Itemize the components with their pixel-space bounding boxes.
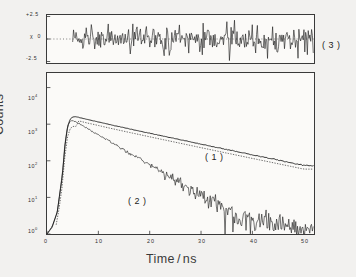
y-tick-1e1: 101 [28, 195, 38, 203]
x-axis-label: Time/ns [146, 252, 197, 266]
y-tick-1e4: 104 [28, 93, 38, 101]
x-tick-10: 10 [95, 238, 103, 244]
x-axis-label-slash: / [175, 252, 183, 266]
y-tick-1e2-exp: 2 [35, 161, 38, 166]
x-tick-20: 20 [147, 238, 155, 244]
curve-1-label: ( 1 ) [205, 152, 224, 162]
panel-3-label: ( 3 ) [322, 40, 341, 50]
decay-plot-panel [46, 72, 315, 235]
x-tick-0: 0 [44, 238, 48, 244]
x-tick-30: 30 [198, 238, 206, 244]
chi-symbol: χ [30, 33, 33, 39]
y-tick-1e4-exp: 4 [35, 93, 38, 98]
y-tick-1e1-exp: 1 [35, 195, 38, 200]
y-axis-label: Counts [0, 94, 6, 135]
y-tick-1e2: 102 [28, 161, 38, 169]
residual-trace-svg [47, 15, 314, 63]
figure-canvas: +2.5 χ 0 -2.5 ( 3 ) 104 103 102 101 100 … [0, 0, 356, 277]
residual-zero-tick: 0 [37, 33, 41, 39]
residual-tick-bottom: -2.5 [26, 55, 37, 61]
residual-tick-mid: χ 0 [30, 33, 41, 39]
x-axis-label-prefix: Time [146, 252, 175, 266]
x-tick-50: 50 [301, 238, 309, 244]
decay-curves-svg [47, 73, 314, 234]
y-tick-1e0-exp: 0 [35, 226, 38, 231]
residual-tick-top: +2.5 [26, 11, 39, 17]
y-tick-1e3: 103 [28, 127, 38, 135]
residual-plot-panel [46, 14, 315, 64]
x-tick-40: 40 [250, 238, 258, 244]
curve-2-label: ( 2 ) [128, 196, 147, 206]
y-tick-1e3-exp: 3 [35, 127, 38, 132]
x-axis-label-unit: ns [183, 252, 197, 266]
y-tick-1e0: 100 [28, 226, 38, 234]
